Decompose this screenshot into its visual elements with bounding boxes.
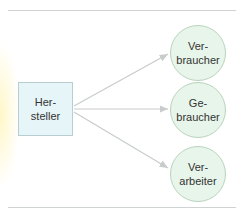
node-label: arbeiter (179, 174, 216, 188)
hersteller-node: Her- steller (18, 82, 73, 136)
node-label: Her- (35, 95, 56, 109)
node-label: braucher (176, 110, 219, 124)
verarbeiter-node: Ver- arbeiter (170, 146, 226, 202)
node-label: Ge- (189, 96, 207, 110)
arrow-to-verarbeiter (74, 112, 168, 168)
node-label: steller (31, 109, 60, 123)
node-label: Ver- (188, 39, 208, 53)
gebraucher-node: Ge- braucher (170, 82, 226, 138)
node-label: braucher (176, 53, 219, 67)
arrow-to-verbraucher (74, 54, 168, 106)
verbraucher-node: Ver- braucher (170, 25, 226, 81)
node-label: Ver- (188, 160, 208, 174)
diagram-canvas: Her- steller Ver- braucher Ge- braucher … (0, 0, 251, 219)
